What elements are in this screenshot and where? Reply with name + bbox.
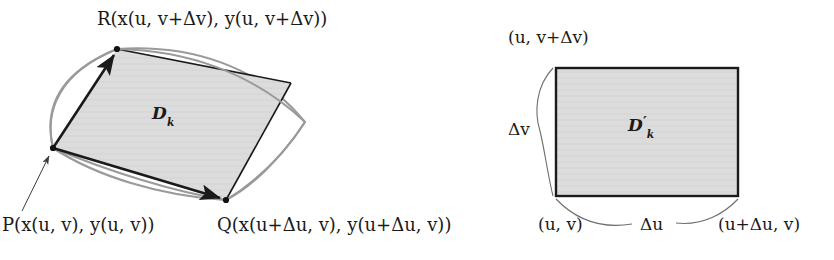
corner-label-top-left: (u, v+Δv) <box>508 29 589 46</box>
region-label-Dk: Dk <box>152 105 174 125</box>
region-label-Dk-base: D <box>152 103 167 123</box>
left-region-group <box>22 46 305 211</box>
region-label-Dk-subscript: k <box>167 116 174 128</box>
corner-label-bottom-right: (u+Δu, v) <box>718 216 800 233</box>
region-label-Dk-prime-subscript: k <box>647 128 654 140</box>
vertex-dot-P <box>50 145 56 151</box>
delta-v-brace <box>537 68 553 196</box>
region-label-Dk-prime: D′k <box>628 117 654 137</box>
right-rectangle-group <box>537 68 738 225</box>
math-figure-coordinate-transformation: R(x(u, v+Δv), y(u, v+Δv)) P(x(u, v), y(u… <box>0 0 834 260</box>
dimension-label-delta-u: Δu <box>640 216 663 233</box>
vertex-dot-R <box>114 46 120 52</box>
dimension-label-delta-v: Δv <box>508 121 530 138</box>
vertex-label-Q: Q(x(u+Δu, v), y(u+Δu, v)) <box>217 216 451 234</box>
vertex-label-P: P(x(u, v), y(u, v)) <box>2 216 154 234</box>
corner-label-bottom-left: (u, v) <box>538 216 583 233</box>
region-label-Dk-prime-base: D <box>628 115 643 135</box>
vertex-label-R: R(x(u, v+Δv), y(u, v+Δv)) <box>97 10 327 28</box>
vertex-dot-Q <box>223 197 229 203</box>
pointer-arrow-to-P <box>22 156 49 211</box>
